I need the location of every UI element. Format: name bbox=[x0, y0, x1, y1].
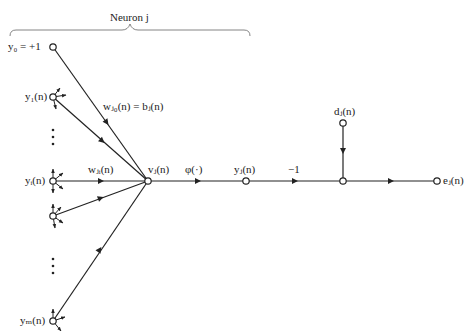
node-ej bbox=[434, 178, 440, 184]
ellipsis-dot bbox=[52, 272, 55, 275]
ellipsis-dot bbox=[52, 143, 55, 146]
label-vj: vⱼ(n) bbox=[148, 164, 169, 175]
ellipsis-dot bbox=[52, 258, 55, 261]
label-activation: φ(·) bbox=[185, 164, 202, 175]
arrow-negation bbox=[292, 178, 298, 184]
node-y1 bbox=[50, 94, 56, 100]
ellipsis-dot bbox=[52, 136, 55, 139]
neuron-brace bbox=[10, 24, 250, 36]
arrow-yi bbox=[98, 178, 104, 184]
label-yj: yⱼ(n) bbox=[234, 164, 255, 175]
label-y1: y₁(n) bbox=[25, 91, 47, 102]
node-yj bbox=[243, 178, 249, 184]
node-yk bbox=[50, 213, 56, 219]
node-ym bbox=[50, 318, 56, 324]
arrow-desired bbox=[340, 148, 346, 154]
neuron-title: Neuron j bbox=[110, 12, 149, 23]
node-sum bbox=[340, 178, 346, 184]
node-vj bbox=[145, 178, 151, 184]
label-input-weight: wⱼᵢ(n) bbox=[88, 164, 113, 175]
signal-flow-graph: Neuron j y₀ = +1 y₁(n) wⱼ₀(n) = bⱼ(n) yᵢ… bbox=[0, 0, 476, 335]
arrow-activation bbox=[195, 178, 201, 184]
node-yi bbox=[50, 178, 56, 184]
arrow-error bbox=[388, 178, 394, 184]
arrow-ym bbox=[96, 245, 104, 253]
label-y0: y₀ = +1 bbox=[8, 41, 41, 52]
label-dj: dⱼ(n) bbox=[334, 106, 355, 117]
label-ej: eⱼ(n) bbox=[443, 175, 464, 186]
ellipsis-dot bbox=[52, 129, 55, 132]
edge-bias bbox=[53, 47, 148, 181]
label-ym: yₘ(n) bbox=[20, 315, 45, 326]
label-bias-weight: wⱼ₀(n) = bⱼ(n) bbox=[103, 101, 163, 112]
node-y0 bbox=[50, 44, 56, 50]
label-yi: yᵢ(n) bbox=[25, 175, 45, 186]
node-dj bbox=[340, 120, 346, 126]
label-negation: −1 bbox=[288, 164, 300, 175]
ellipsis-dot bbox=[52, 265, 55, 268]
